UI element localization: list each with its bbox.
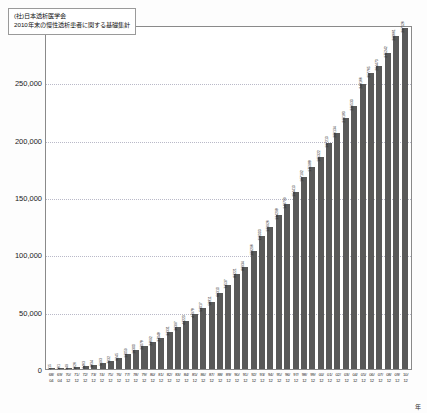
- x-axis-tick-label: 81/12: [157, 372, 165, 402]
- x-axis-tick-label: 91/12: [241, 372, 249, 402]
- x-tick-month: 12: [207, 378, 215, 384]
- x-axis-tick-label: 00/12: [317, 372, 325, 402]
- x-axis-tick-label: 72/12: [81, 372, 89, 402]
- x-tick-month: 12: [334, 378, 342, 384]
- bar-value-label: 58811: [208, 296, 212, 305]
- x-tick-month: 12: [283, 378, 291, 384]
- x-tick-month: 12: [157, 378, 165, 384]
- bar-value-label: 949: [65, 364, 69, 370]
- bar: 27048: [158, 338, 164, 369]
- bar: 47978: [192, 314, 198, 369]
- bar-slot: 116303: [258, 27, 266, 369]
- x-tick-month: 12: [342, 378, 350, 384]
- bar: 13059: [125, 354, 131, 369]
- bar-value-label: 215: [48, 365, 52, 371]
- bar-value-label: 264473: [375, 59, 379, 70]
- bar: 264473: [376, 66, 382, 369]
- x-tick-month: 12: [376, 378, 384, 384]
- bar-value-label: 248166: [359, 78, 363, 89]
- bar-slot: 264473: [375, 27, 383, 369]
- bar-slot: 36397: [174, 27, 182, 369]
- x-tick-month: 12: [190, 378, 198, 384]
- bar-slot: 134298: [275, 27, 283, 369]
- bar-slot: 248166: [358, 27, 366, 369]
- chart-title-box: (社)日本透析医学会 2010年末の慢性透析患者に関する基礎集計: [8, 8, 136, 35]
- bar: 134298: [276, 215, 282, 369]
- x-tick-month: 12: [64, 378, 72, 384]
- x-axis-tick-label: 82/12: [165, 372, 173, 402]
- bar-value-label: 13059: [124, 348, 128, 358]
- bar-value-label: 53017: [199, 302, 203, 312]
- bar: 361: [58, 368, 64, 369]
- bar-slot: 66310: [216, 27, 224, 369]
- bar-value-label: 167192: [300, 171, 304, 182]
- x-axis-tick-label: 87/12: [207, 372, 215, 402]
- bar-slot: 3834: [90, 27, 98, 369]
- x-tick-month: 04: [47, 378, 55, 384]
- x-tick-month: 12: [131, 378, 139, 384]
- bar: 215: [49, 368, 55, 369]
- x-tick-month: 12: [292, 378, 300, 384]
- bar: 206134: [334, 133, 340, 369]
- x-axis-tick-label: 88/12: [216, 372, 224, 402]
- x-tick-month: 12: [385, 378, 393, 384]
- bar-slot: 16300: [132, 27, 140, 369]
- bar-value-label: 7332: [107, 356, 111, 364]
- bar: 949: [66, 368, 72, 369]
- bar: 83221: [234, 274, 240, 369]
- bar: 16300: [133, 350, 139, 369]
- bar-value-label: 20078: [140, 340, 144, 350]
- bar-value-label: 229533: [350, 99, 354, 110]
- bar-slot: 23692: [149, 27, 157, 369]
- x-axis-tick-label: 85/12: [190, 372, 198, 402]
- chart-title-line-1: (社)日本透析医学会: [14, 12, 130, 21]
- bar: 7332: [108, 361, 114, 369]
- x-axis-tick-label: 05/12: [359, 372, 367, 402]
- bar-slot: 20078: [140, 27, 148, 369]
- x-axis-tick-label: 98/12: [300, 372, 308, 402]
- bar: 275242: [385, 53, 391, 369]
- bar-value-label: 32331: [166, 326, 170, 336]
- bar-value-label: 290661: [392, 29, 396, 40]
- bar: 175988: [309, 167, 315, 369]
- x-axis-tick-label: 77/12: [123, 372, 131, 402]
- bar-slot: 257765: [367, 27, 375, 369]
- x-tick-month: 12: [174, 378, 182, 384]
- x-axis-tick-label: 84/12: [182, 372, 190, 402]
- y-axis-tick-label: 200,000: [15, 136, 42, 145]
- bar-slot: 13059: [124, 27, 132, 369]
- bar-value-label: 27048: [157, 332, 161, 342]
- bar: 2463: [83, 366, 89, 369]
- x-axis-tick-label: 02/12: [334, 372, 342, 402]
- bar-value-label: 5193: [99, 358, 103, 366]
- bar-value-label: 9245: [115, 354, 119, 362]
- bar-slot: 197213: [325, 27, 333, 369]
- bar-slot: 83221: [233, 27, 241, 369]
- bar-value-label: 206134: [333, 126, 337, 137]
- bar: 42223: [183, 321, 189, 369]
- bar: 23692: [150, 342, 156, 369]
- bar-value-label: 66310: [216, 287, 220, 297]
- bar: 123926: [267, 227, 273, 369]
- x-axis-tick-label: 03/12: [342, 372, 350, 402]
- x-axis-tick-label: 94/12: [266, 372, 274, 402]
- bar-value-label: 83221: [233, 268, 237, 278]
- x-tick-month: 12: [233, 378, 241, 384]
- x-axis-tick-label: 74/12: [98, 372, 106, 402]
- x-axis-tick-label: 04/12: [351, 372, 359, 402]
- x-tick-month: 12: [393, 378, 401, 384]
- bar-value-label: 197213: [325, 136, 329, 147]
- x-axis-tick-label: 90/12: [233, 372, 241, 402]
- x-tick-month: 12: [81, 378, 89, 384]
- bar: 103296: [251, 251, 257, 369]
- x-tick-month: 12: [140, 378, 148, 384]
- x-axis-tick-label: 93/12: [258, 372, 266, 402]
- y-axis-tick-label: 0: [38, 366, 42, 375]
- bar-slot: 47978: [191, 27, 199, 369]
- bar: 116303: [259, 236, 265, 369]
- x-tick-month: 12: [368, 378, 376, 384]
- bar-value-label: 116303: [258, 229, 262, 240]
- bar-slot: 275242: [384, 27, 392, 369]
- y-axis-tick-label: 250,000: [15, 79, 42, 88]
- bar-value-label: 257765: [367, 67, 371, 78]
